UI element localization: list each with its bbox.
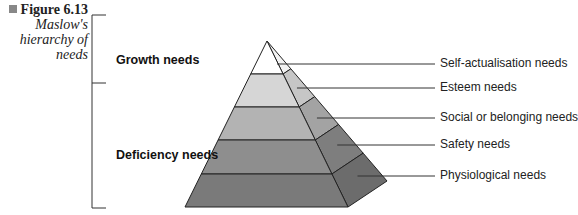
pyramid: [185, 41, 387, 207]
pyramid-layer-2: [218, 107, 315, 140]
pyramid-layer-3: [201, 140, 332, 174]
level-label-self-actualisation: Self-actualisation needs: [440, 56, 567, 70]
deficiency-needs-label: Deficiency needs: [116, 148, 218, 162]
level-label-social: Social or belonging needs: [440, 110, 578, 124]
level-label-safety: Safety needs: [440, 137, 510, 151]
level-label-physiological: Physiological needs: [440, 168, 546, 182]
growth-needs-label: Growth needs: [116, 53, 199, 67]
level-label-esteem: Esteem needs: [440, 80, 517, 94]
group-bracket: [92, 15, 106, 208]
pyramid-layer-4: [185, 174, 348, 207]
pyramid-diagram: [0, 0, 578, 215]
